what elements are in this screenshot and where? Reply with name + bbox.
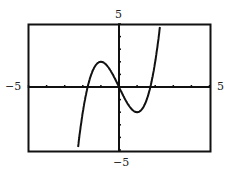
graph-canvas: [0, 0, 231, 176]
x-max-label: 5: [217, 81, 224, 92]
y-min-label: −5: [113, 157, 129, 168]
x-min-label: −5: [5, 81, 21, 92]
y-max-label: 5: [115, 9, 122, 20]
